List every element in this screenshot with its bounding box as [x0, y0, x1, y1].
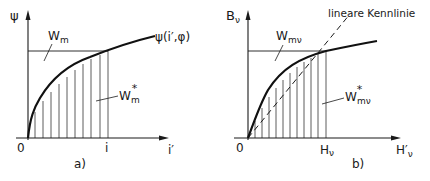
caption-a: a)	[74, 157, 86, 171]
curve-label-a: ψ(i′,φ)	[155, 30, 190, 44]
origin-label-b: 0	[236, 141, 244, 155]
diagram-a: ψ ψ(i′,φ) Wm Wm* 0 i i′ a)	[10, 8, 190, 171]
x-mark-label-a: i	[105, 141, 108, 155]
x-axis-label-b: H′ν	[396, 143, 413, 159]
x-axis-label-a: i′	[168, 143, 174, 157]
lower-area-label-b: Wmν*	[345, 83, 371, 106]
x-axis-arrow-icon	[159, 136, 169, 141]
y-axis-label-b: Bν	[226, 8, 240, 25]
upper-area-label-a: Wm	[48, 29, 69, 45]
x-mark-label-b: Hν	[320, 143, 334, 158]
lower-area-label-a: Wm*	[119, 82, 140, 105]
dashed-line-label: lineare Kennlinie	[328, 7, 415, 19]
leader-wm-a	[44, 44, 52, 61]
leader-wmv-star-b	[322, 98, 344, 104]
leader-wm-star-a	[96, 96, 118, 101]
diagram-b: Bν lineare Kennlinie Wmν Wmν* 0 Hν H′ν b…	[226, 7, 415, 171]
x-axis-arrow-icon	[391, 136, 401, 141]
upper-area-label-b: Wmν	[276, 29, 302, 45]
coenergy-hatching-a	[35, 51, 108, 138]
caption-b: b)	[352, 157, 364, 171]
y-axis-arrow-icon	[26, 10, 31, 20]
y-axis-arrow-icon	[246, 10, 251, 20]
leader-wmv-b	[275, 45, 283, 61]
y-axis-label-a: ψ	[10, 8, 19, 23]
origin-label-a: 0	[17, 141, 25, 155]
magnetic-energy-diagrams: ψ ψ(i′,φ) Wm Wm* 0 i i′ a)	[0, 0, 430, 181]
linear-characteristic-line	[248, 14, 350, 138]
